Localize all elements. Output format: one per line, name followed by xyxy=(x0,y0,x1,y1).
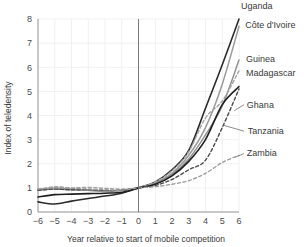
x-tick-label: 4 xyxy=(203,216,208,226)
y-tick-label: 0 xyxy=(27,207,32,217)
series-label-ghana: Ghana xyxy=(247,100,274,110)
series-label-tanzania: Tanzania xyxy=(248,126,284,136)
x-tick-label: 3 xyxy=(186,216,191,226)
series-label-guinea: Guinea xyxy=(246,54,275,64)
teledensity-line-chart: 012345678 −6−5−4−3−2−10123456 UgandaCôte… xyxy=(0,0,308,247)
y-tick-label: 4 xyxy=(27,111,32,121)
series-label-madagascar: Madagascar xyxy=(246,68,296,78)
chart-figure: 012345678 −6−5−4−3−2−10123456 UgandaCôte… xyxy=(0,0,308,247)
y-tick-label: 1 xyxy=(27,183,32,193)
x-tick-label: −6 xyxy=(33,216,43,226)
x-axis-title: Year relative to start of mobile competi… xyxy=(67,234,225,244)
y-tick-label: 3 xyxy=(27,135,32,145)
series-label-uganda: Uganda xyxy=(241,1,273,11)
x-tick-label: 6 xyxy=(236,216,241,226)
series-labels-group: UgandaCôte d'IvoireGuineaMadagascarGhana… xyxy=(241,1,296,158)
y-tick-label: 5 xyxy=(27,87,32,97)
x-tick-label: 0 xyxy=(136,216,141,226)
x-tick-label: −3 xyxy=(83,216,93,226)
y-tick-label: 2 xyxy=(27,159,32,169)
x-tick-label: 5 xyxy=(220,216,225,226)
series-label-cote-d-ivoire: Côte d'Ivoire xyxy=(245,20,295,30)
x-tick-label: −5 xyxy=(50,216,60,226)
x-tick-labels-group: −6−5−4−3−2−10123456 xyxy=(33,216,242,226)
x-tick-label: −2 xyxy=(100,216,110,226)
x-tick-label: −4 xyxy=(66,216,76,226)
series-label-zambia: Zambia xyxy=(247,148,277,158)
x-tick-label: −1 xyxy=(117,216,127,226)
y-tick-labels-group: 012345678 xyxy=(27,14,32,217)
x-tick-label: 1 xyxy=(153,216,158,226)
y-tick-label: 6 xyxy=(27,63,32,73)
x-tick-label: 2 xyxy=(169,216,174,226)
y-axis-title: Index of teledensity xyxy=(3,81,13,155)
y-tick-label: 8 xyxy=(27,14,32,24)
y-tick-label: 7 xyxy=(27,38,32,48)
